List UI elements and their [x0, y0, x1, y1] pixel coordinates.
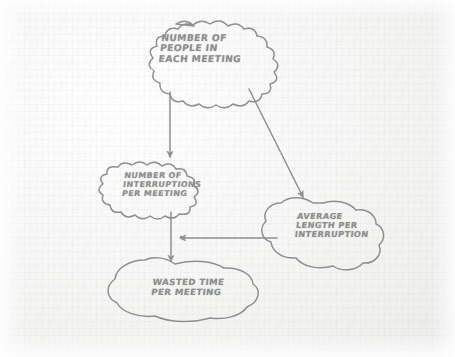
cloud-outline-people [149, 21, 278, 108]
cloud-outline-wasted [108, 258, 258, 322]
cloud-outline-interruptions [99, 162, 198, 219]
cloud-outline-average [262, 198, 384, 270]
sketch-layer [0, 0, 455, 357]
diagram-canvas: NUMBER OF PEOPLE IN EACH MEETING NUMBER … [0, 0, 455, 357]
edge-people-to-average [249, 89, 303, 197]
